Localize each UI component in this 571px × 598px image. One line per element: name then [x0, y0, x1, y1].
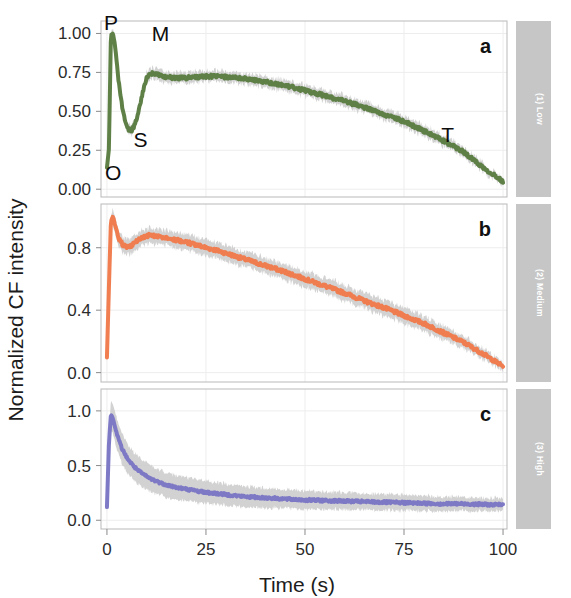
transient-label-O: O	[105, 161, 121, 184]
y-axis-title: Normalized CF intensity	[4, 198, 27, 421]
x-axis-title: Time (s)	[259, 573, 335, 596]
panel-letter-c: c	[480, 403, 491, 425]
y-tick-label: 0.0	[67, 364, 91, 383]
panel-c: 0.00.51.0c(3) High	[67, 389, 551, 530]
cf-induction-figure: 0.000.250.500.751.00aPOSMT(1) Low0.00.40…	[0, 0, 571, 598]
y-tick-label: 0.5	[67, 457, 91, 476]
transient-label-S: S	[134, 128, 148, 151]
condition-label-b: (2) Medium	[535, 269, 545, 317]
transient-label-P: P	[104, 11, 118, 34]
panel-letter-b: b	[479, 218, 491, 240]
condition-label-a: (1) Low	[535, 93, 545, 125]
y-tick-label: 1.0	[67, 402, 91, 421]
x-tick-label: 100	[489, 540, 517, 559]
y-tick-label: 0.4	[67, 301, 91, 320]
x-tick-label: 0	[102, 540, 111, 559]
x-tick-label: 75	[395, 540, 414, 559]
y-tick-label: 1.00	[58, 24, 91, 43]
panel-letter-a: a	[480, 35, 492, 57]
panels-group: 0.000.250.500.751.00aPOSMT(1) Low0.00.40…	[58, 11, 551, 530]
y-tick-label: 0.50	[58, 102, 91, 121]
condition-strip-a	[516, 21, 551, 197]
panel-b: 0.00.40.8b(2) Medium	[67, 204, 551, 383]
y-tick-label: 0.25	[58, 141, 91, 160]
y-tick-label: 0.00	[58, 180, 91, 199]
transient-label-M: M	[152, 22, 170, 45]
condition-label-c: (3) High	[535, 442, 545, 476]
y-tick-label: 0.75	[58, 63, 91, 82]
x-tick-label: 50	[296, 540, 315, 559]
transient-label-T: T	[441, 123, 454, 146]
y-tick-label: 0.8	[67, 239, 91, 258]
panel-a: 0.000.250.500.751.00aPOSMT(1) Low	[58, 11, 551, 199]
y-tick-label: 0.0	[67, 511, 91, 530]
condition-strip-b	[516, 204, 551, 382]
x-tick-label: 25	[197, 540, 216, 559]
condition-strip-c	[516, 389, 551, 529]
